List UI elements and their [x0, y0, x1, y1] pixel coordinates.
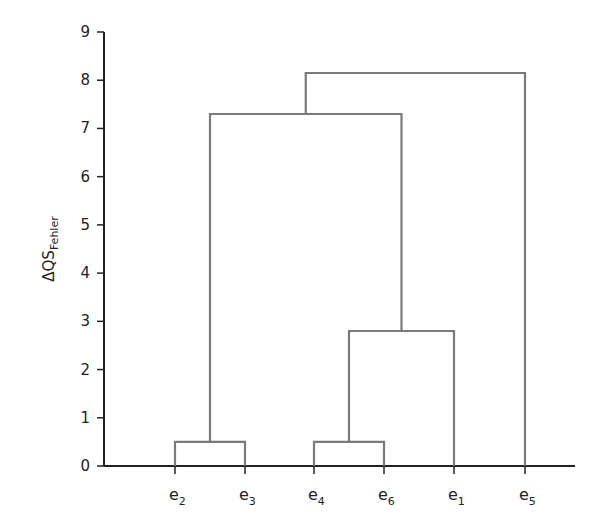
y-tick-label: 7 [80, 119, 90, 137]
y-tick-label: 6 [80, 168, 90, 186]
leaf-labels: e2e3e4e6e1e5 [169, 485, 536, 508]
x-axis [104, 466, 575, 474]
y-axis: 0123456789 [80, 23, 104, 475]
dendrogram-link [314, 442, 384, 466]
y-tick-label: 1 [80, 409, 90, 427]
leaf-label: e5 [519, 485, 536, 508]
dendrogram-link [175, 442, 245, 466]
dendrogram-link [306, 73, 525, 466]
dendrogram-link [210, 114, 402, 442]
leaf-label: e1 [448, 485, 465, 508]
dendrogram-links [175, 73, 525, 466]
dendrogram-link [349, 331, 454, 466]
y-tick-label: 5 [80, 216, 90, 234]
y-tick-label: 2 [80, 361, 90, 379]
y-tick-label: 4 [80, 264, 90, 282]
leaf-label: e3 [239, 485, 256, 508]
y-tick-label: 8 [80, 71, 90, 89]
dendrogram-chart: 0123456789 e2e3e4e6e1e5 ΔQSFehler [0, 0, 593, 532]
y-tick-label: 3 [80, 312, 90, 330]
leaf-label: e6 [378, 485, 395, 508]
y-tick-label: 0 [80, 457, 90, 475]
leaf-label: e2 [169, 485, 186, 508]
y-tick-label: 9 [80, 23, 90, 41]
leaf-label: e4 [308, 485, 325, 508]
y-axis-label: ΔQSFehler [40, 216, 61, 282]
